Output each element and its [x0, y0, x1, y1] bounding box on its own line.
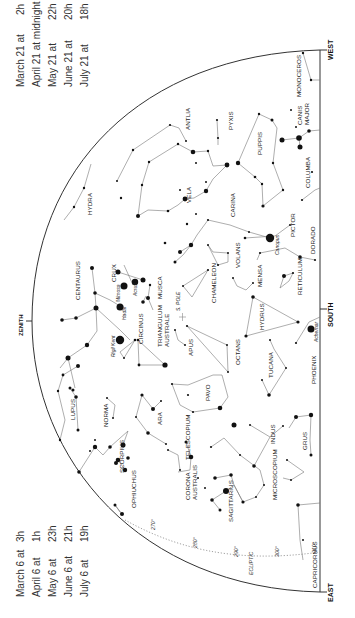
svg-text:June 6 at: June 6 at [63, 556, 74, 597]
times-top: March 21 at 2h April 21 at midnight May … [15, 1, 90, 87]
svg-text:270°: 270° [150, 519, 156, 531]
svg-text:March 6 at: March 6 at [15, 550, 26, 597]
star-acrux: Acrux [132, 283, 138, 297]
label-triangulum-australe-2: AUSTRALE [163, 314, 170, 347]
direction-west: WEST [327, 39, 334, 60]
label-puppis: PUPPIS [256, 132, 263, 155]
svg-text:April 21 at midnight: April 21 at midnight [31, 1, 42, 87]
label-norma: NORMA [102, 403, 109, 427]
label-centaurus: CENTAURUS [74, 261, 81, 300]
svg-text:June 21 at: June 21 at [63, 40, 74, 87]
direction-south: SOUTH [327, 303, 334, 328]
direction-east: EAST [327, 583, 334, 602]
label-antlia: ANTLIA [184, 107, 191, 130]
svg-text:19h: 19h [79, 525, 90, 542]
south-pole-marker [179, 313, 186, 321]
label-phoenix: PHOENIX [310, 355, 317, 384]
label-chameleon: CHAMELEON [210, 263, 217, 303]
svg-text:310°: 310° [311, 542, 317, 553]
label-lupus: LUPUS [69, 399, 76, 420]
direction-zenith: ZENITH [18, 314, 24, 336]
label-triangulum-australe: TRIANGULUM [156, 305, 163, 347]
label-ophiuchus: OPHIUCHUS [130, 470, 137, 508]
svg-text:May 6 at: May 6 at [47, 558, 58, 597]
svg-text:3h: 3h [15, 531, 26, 542]
label-corona-australis-2: AUSTRALIS [191, 465, 198, 500]
svg-text:May 21 at: May 21 at [47, 43, 58, 87]
label-musca: MUSCA [156, 275, 163, 299]
label-corona-australis: CORONA [184, 471, 191, 500]
star-mimosa: Mimosa [115, 284, 121, 302]
svg-text:March 21 at: March 21 at [15, 34, 26, 87]
star-chart: MONOCEROS CANIS MAJOR PYXIS ANTLIA PUPPI… [0, 0, 355, 618]
label-vela: VELA [185, 186, 192, 203]
label-circinus: CIRCINUS [137, 313, 144, 344]
label-indus: INDUS [269, 424, 276, 444]
ecliptic-label: ECLIPTIC [248, 551, 254, 575]
svg-text:18h: 18h [79, 3, 90, 20]
label-octans: OCTANS [234, 339, 241, 365]
label-canis-major-2: MAJOR [303, 102, 310, 125]
constellation-labels: MONOCEROS CANIS MAJOR PYXIS ANTLIA PUPPI… [69, 55, 318, 588]
label-scorpius: SCORPIUS [118, 440, 125, 473]
label-grus: GRUS [301, 432, 308, 450]
label-s-pole: S. POLE [175, 291, 181, 311]
svg-text:April 6 at: April 6 at [31, 557, 42, 597]
label-sagittarius: SAGITTARIUS [227, 480, 234, 522]
label-hydra: HYDRA [86, 192, 93, 215]
label-pavo: PAVO [204, 384, 211, 401]
star-hadar: Hadar [121, 306, 127, 320]
star-canopus: Canopus [274, 234, 280, 255]
ecliptic-labels: 270° 280° 290° 300° 310° ECLIPTIC [150, 519, 317, 575]
label-volans: VOLANS [234, 242, 241, 268]
svg-text:23h: 23h [47, 525, 58, 542]
label-pictor: PICTOR [289, 213, 296, 237]
label-tucana: TUCANA [267, 351, 274, 378]
svg-text:290°: 290° [233, 546, 239, 558]
label-dorado: DORADO [309, 226, 316, 254]
svg-text:300°: 300° [274, 546, 280, 557]
label-crux: CRUX [110, 264, 117, 282]
label-hydrus: HYDRUS [258, 303, 265, 330]
label-pyxis: PYXIS [227, 111, 234, 130]
label-ara: ARA [156, 411, 163, 425]
label-canis-major: CANIS [296, 106, 303, 125]
label-mensa: MENSA [256, 264, 263, 287]
label-telescopium: TELESCOPIUM [184, 415, 191, 460]
svg-text:July 21 at: July 21 at [79, 44, 90, 87]
star-rigil-kent: Rigil Kent [110, 335, 116, 357]
svg-text:1h: 1h [31, 531, 42, 542]
svg-text:2h: 2h [15, 4, 26, 15]
times-bottom: March 6 at 3h April 6 at 1h May 6 at 23h… [15, 525, 90, 597]
label-carina: CARINA [229, 192, 236, 217]
label-monoceros: MONOCEROS [295, 55, 302, 97]
label-apus: APUS [187, 339, 194, 356]
label-reticulum: RETICULUM [296, 258, 303, 295]
label-microscopium: MICROSCOPIUM [271, 449, 278, 500]
svg-text:22h: 22h [47, 3, 58, 20]
svg-text:280°: 280° [192, 537, 198, 549]
svg-text:20h: 20h [63, 3, 74, 20]
svg-text:July 6 at: July 6 at [79, 560, 90, 597]
label-columba: COLUMBA [304, 156, 311, 188]
star-achernar: Achernar [313, 321, 319, 343]
svg-text:21h: 21h [63, 525, 74, 542]
